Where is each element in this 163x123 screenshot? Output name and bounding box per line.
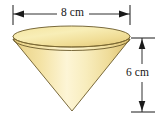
height-dimension-label: 6 cm xyxy=(126,67,149,79)
cone-top-ellipse xyxy=(13,26,130,51)
width-dimension-label: 8 cm xyxy=(0,7,163,19)
cone-lateral-surface xyxy=(13,39,130,111)
cone-geometry-figure: 8 cm 6 cm xyxy=(0,0,163,123)
arrowhead-up-icon xyxy=(139,39,146,49)
cone-body xyxy=(13,39,130,111)
arrowhead-down-icon xyxy=(139,101,146,111)
